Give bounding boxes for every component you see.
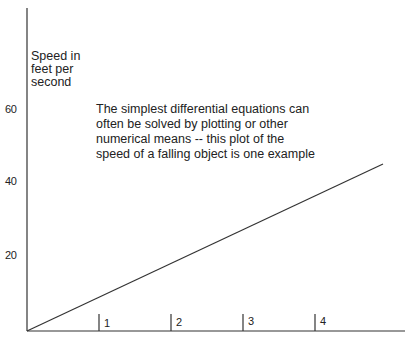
x-tick-label-3: 3 xyxy=(248,315,254,327)
x-tick-label-1: 1 xyxy=(104,317,110,329)
y-tick-label-60: 60 xyxy=(5,103,17,115)
y-tick-label-40: 40 xyxy=(5,175,17,187)
chart-annotation: The simplest differential equations can … xyxy=(96,102,316,162)
y-tick-label-20: 20 xyxy=(5,249,17,261)
x-tick-label-4: 4 xyxy=(320,315,326,327)
y-axis-title: Speed in feet per second xyxy=(31,50,101,89)
speed-line xyxy=(27,164,383,331)
x-tick-label-2: 2 xyxy=(176,316,182,328)
